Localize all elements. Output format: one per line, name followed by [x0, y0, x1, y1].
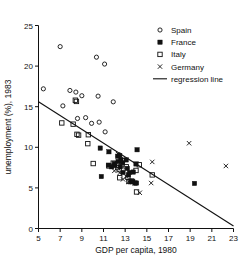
data-point-spain [68, 88, 72, 92]
data-point-germany [149, 181, 153, 185]
data-point-italy [134, 190, 138, 194]
data-point-spain [102, 62, 106, 66]
legend-item-italy[interactable]: Italy [158, 50, 186, 59]
x-tick-label: 23 [229, 234, 238, 243]
y-tick-label: 10 [24, 143, 33, 152]
data-point-france [107, 150, 111, 154]
chart-canvas: 579111315171921230510152025GDP per capit… [0, 0, 247, 263]
data-point-france [192, 181, 196, 185]
data-point-france [135, 148, 139, 152]
scatter-chart: 579111315171921230510152025GDP per capit… [0, 0, 247, 263]
y-axis-title: unemployment (%), 1983 [3, 79, 13, 174]
data-point-france [134, 181, 138, 185]
data-point-spain [96, 94, 100, 98]
data-point-spain [61, 104, 65, 108]
x-tick-label: 5 [36, 234, 41, 243]
x-tick-label: 13 [121, 234, 130, 243]
y-tick-label: 5 [29, 184, 34, 193]
x-tick-label: 17 [164, 234, 173, 243]
legend-item-germany[interactable]: Germany [158, 63, 204, 72]
y-tick-label: 15 [24, 103, 33, 112]
data-point-italy [60, 121, 64, 125]
legend-marker-cross-x [158, 64, 162, 68]
data-point-spain [58, 45, 62, 49]
data-point-italy [86, 141, 90, 145]
legend-item-spain[interactable]: Spain [158, 26, 192, 35]
legend-label-regression-line: regression line [171, 75, 224, 84]
x-tick-label: 19 [186, 234, 195, 243]
data-point-germany [224, 164, 228, 168]
legend-label-germany: Germany [171, 63, 204, 72]
data-point-france [131, 170, 135, 174]
axis-lines [39, 26, 234, 229]
data-point-spain [41, 87, 45, 91]
data-point-germany [138, 191, 142, 195]
legend-label-italy: Italy [171, 50, 186, 59]
data-point-germany [112, 169, 116, 173]
data-point-spain [74, 90, 78, 94]
data-point-spain [89, 121, 93, 125]
x-axis-title: GDP per capita, 1980 [95, 245, 177, 255]
legend-label-france: France [171, 38, 196, 47]
x-tick-label: 21 [207, 234, 216, 243]
x-tick-label: 15 [142, 234, 151, 243]
data-point-spain [80, 94, 84, 98]
data-point-germany [187, 141, 191, 145]
y-tick-label: 20 [24, 62, 33, 71]
y-tick-label: 25 [24, 22, 33, 31]
legend-label-spain: Spain [171, 26, 191, 35]
data-point-germany [150, 160, 154, 164]
x-tick-label: 7 [58, 234, 63, 243]
data-point-spain [94, 55, 98, 59]
legend-item-france[interactable]: France [158, 38, 197, 47]
legend-marker-filled-square [158, 40, 162, 44]
data-point-spain [97, 120, 101, 124]
data-point-spain [111, 100, 115, 104]
x-tick-label: 11 [99, 234, 108, 243]
data-point-spain [75, 116, 79, 120]
y-tick-label: 0 [29, 225, 34, 234]
legend-marker-open-square [158, 52, 162, 56]
data-point-italy [91, 161, 95, 165]
data-point-france [98, 146, 102, 150]
data-point-spain [103, 130, 107, 134]
legend-marker-open-circle [158, 28, 162, 32]
series-spain [41, 45, 115, 134]
data-point-france [99, 174, 103, 178]
legend-item-regression-line[interactable]: regression line [153, 75, 224, 84]
data-point-spain [84, 116, 88, 120]
x-tick-label: 9 [80, 234, 85, 243]
